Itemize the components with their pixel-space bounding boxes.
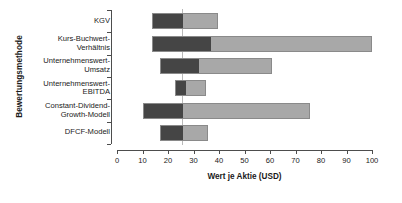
bar-segment-low xyxy=(161,59,199,73)
bar xyxy=(143,103,311,119)
y-axis-tick xyxy=(107,32,111,33)
y-axis-tick-labels: KGVKurs-Buchwert- VerhältnisUnternehmens… xyxy=(18,10,110,144)
x-axis-tick-label: 40 xyxy=(207,156,231,165)
y-axis-tick-label: Unternehmenswert- EBITDA xyxy=(18,80,110,97)
x-axis-tick-label: 50 xyxy=(233,156,257,165)
x-axis-title: Wert je Aktie (USD) xyxy=(117,172,372,181)
y-axis-tick xyxy=(107,144,111,145)
bar xyxy=(160,58,272,74)
x-axis-tick xyxy=(117,150,118,154)
bar xyxy=(152,36,372,52)
y-axis-tick-label: KGV xyxy=(18,17,110,26)
bar-segment-low xyxy=(144,104,184,118)
x-axis-tick xyxy=(168,150,169,154)
x-axis-tick-label: 30 xyxy=(182,156,206,165)
x-axis-tick-label: 80 xyxy=(309,156,333,165)
x-axis-tick xyxy=(347,150,348,154)
plot-area xyxy=(117,10,372,144)
x-axis-tick xyxy=(270,150,271,154)
x-axis-tick-label: 100 xyxy=(360,156,384,165)
y-axis-tick xyxy=(107,10,111,11)
x-axis-tick-label: 60 xyxy=(258,156,282,165)
bar-segment-low xyxy=(153,14,183,28)
y-axis-tick-label: Kurs-Buchwert- Verhältnis xyxy=(18,35,110,52)
x-axis-tick xyxy=(143,150,144,154)
bar-segment-low xyxy=(153,37,211,51)
bar xyxy=(175,80,206,96)
valuation-range-chart: Bewertungsmethode KGVKurs-Buchwert- Verh… xyxy=(0,0,402,203)
bar-segment-high xyxy=(183,14,217,28)
y-axis-tick xyxy=(107,77,111,78)
y-axis-line xyxy=(111,10,112,144)
y-axis-tick-label: Constant-Dividend- Growth-Modell xyxy=(18,102,110,119)
y-axis-tick xyxy=(107,122,111,123)
x-axis-tick xyxy=(321,150,322,154)
bar xyxy=(160,125,208,141)
bar-segment-high xyxy=(199,59,271,73)
y-axis-tick-label: Unternehmenswert- Umsatz xyxy=(18,57,110,74)
x-axis-tick-label: 90 xyxy=(335,156,359,165)
x-axis-tick xyxy=(372,150,373,154)
bar xyxy=(152,13,218,29)
y-axis-tick xyxy=(107,55,111,56)
y-axis-tick-label: DFCF-Modell xyxy=(18,128,110,137)
bar-segment-high xyxy=(183,104,309,118)
x-axis-tick xyxy=(296,150,297,154)
y-axis-tick xyxy=(107,99,111,100)
x-axis-tick xyxy=(194,150,195,154)
bar-segment-high xyxy=(186,81,205,95)
bar-segment-low xyxy=(176,81,186,95)
bar-segment-low xyxy=(161,126,183,140)
x-axis-tick-label: 0 xyxy=(105,156,129,165)
x-axis-tick-label: 20 xyxy=(156,156,180,165)
x-axis-tick xyxy=(219,150,220,154)
x-axis-tick-label: 10 xyxy=(131,156,155,165)
x-axis-tick-label: 70 xyxy=(284,156,308,165)
x-axis-tick xyxy=(245,150,246,154)
bar-segment-high xyxy=(183,126,207,140)
bar-segment-high xyxy=(211,37,371,51)
